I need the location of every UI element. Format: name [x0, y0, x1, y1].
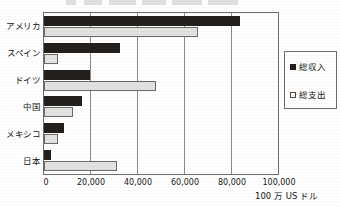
y-axis-tick-label: ドイツ	[0, 75, 41, 85]
bar-expense	[44, 54, 58, 64]
bar-income	[44, 16, 240, 26]
bar-income	[44, 70, 90, 80]
x-axis-tick-label: 60,000	[171, 178, 199, 188]
x-axis-tick-label: 20,000	[77, 178, 105, 188]
bar-expense	[44, 81, 156, 91]
y-axis-tick-label: メキシコ	[0, 129, 41, 139]
legend-item-expense: 総支出	[290, 90, 326, 100]
y-axis-tick-label: 中国	[0, 102, 41, 112]
hollow-square-icon	[290, 92, 296, 98]
bar-income	[44, 150, 51, 160]
y-axis-labels: アメリカ スペイン ドイツ 中国 メキシコ 日本	[0, 12, 41, 175]
bar-expense	[44, 161, 117, 171]
bar-chart: アメリカ スペイン ドイツ 中国 メキシコ 日本 020,00040,00060…	[0, 0, 340, 206]
bar-expense	[44, 27, 198, 37]
x-axis-tick-label: 40,000	[124, 178, 152, 188]
bars-layer	[44, 13, 279, 174]
filled-square-icon	[290, 64, 296, 70]
clipped-title-strip	[62, 0, 247, 5]
x-axis-tick-label: 100,000	[262, 178, 295, 188]
x-axis-title: 100 万 US ドル	[0, 191, 318, 202]
x-axis-labels: 020,00040,00060,00080,000100,000	[0, 178, 340, 190]
bar-income	[44, 123, 64, 133]
legend-item-income: 総収入	[290, 62, 326, 72]
legend-label: 総収入	[299, 62, 326, 72]
legend-label: 総支出	[299, 90, 326, 100]
y-axis-tick-label: アメリカ	[0, 21, 41, 31]
bar-income	[44, 96, 82, 106]
x-axis-tick-label: 80,000	[218, 178, 246, 188]
y-axis-tick-label: スペイン	[0, 48, 41, 58]
legend: 総収入 総支出	[284, 51, 337, 109]
bar-expense	[44, 107, 73, 117]
y-axis-tick-label: 日本	[0, 156, 41, 166]
x-axis-tick-label: 0	[43, 178, 48, 188]
bar-expense	[44, 134, 58, 144]
bar-income	[44, 43, 120, 53]
